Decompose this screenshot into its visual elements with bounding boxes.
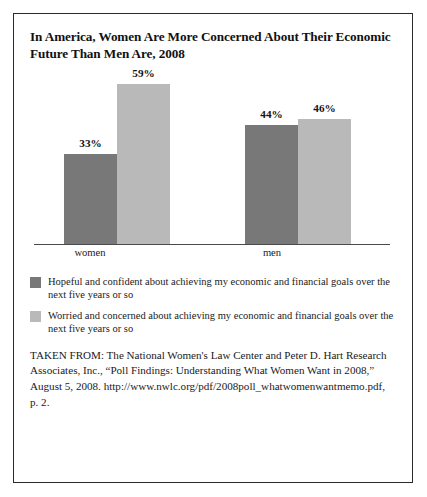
legend-swatch-icon-hopeful <box>30 277 41 288</box>
figure-inner: In America, Women Are More Concerned Abo… <box>14 14 412 482</box>
legend-item-worried: Worried and concerned about achieving my… <box>30 309 396 336</box>
bar-group-women: 33% 59% <box>64 84 170 244</box>
legend-swatch-icon-worried <box>30 311 41 322</box>
source-citation: TAKEN FROM: The National Women's Law Cen… <box>30 348 396 411</box>
legend-item-hopeful: Hopeful and confident about achieving my… <box>30 275 396 302</box>
bar-men-hopeful[interactable]: 44% <box>245 125 298 244</box>
bar-value-men-hopeful: 44% <box>245 108 298 120</box>
bar-value-women-worried: 59% <box>117 67 170 79</box>
x-axis-tick-labels: women men <box>30 247 396 265</box>
page-title: In America, Women Are More Concerned Abo… <box>30 28 396 63</box>
bar-group-men: 44% 46% <box>245 119 351 244</box>
x-tick-label-men: men <box>217 247 327 258</box>
bar-women-hopeful[interactable]: 33% <box>64 154 117 243</box>
plot-area: 33% 59% 44% 46% <box>30 69 396 245</box>
bar-chart: 33% 59% 44% 46% women <box>30 69 396 265</box>
x-axis-baseline <box>34 244 390 245</box>
bar-value-women-hopeful: 33% <box>64 137 117 149</box>
legend-label-hopeful: Hopeful and confident about achieving my… <box>48 275 396 302</box>
bar-men-worried[interactable]: 46% <box>298 119 351 244</box>
bar-value-men-worried: 46% <box>298 102 351 114</box>
x-tick-label-women: women <box>35 247 145 258</box>
figure-card: In America, Women Are More Concerned Abo… <box>13 13 413 483</box>
bar-women-worried[interactable]: 59% <box>117 84 170 244</box>
legend-label-worried: Worried and concerned about achieving my… <box>48 309 396 336</box>
chart-legend: Hopeful and confident about achieving my… <box>30 275 396 336</box>
